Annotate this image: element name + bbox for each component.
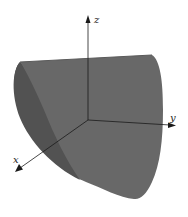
3d-surface-figure: z y x: [0, 0, 188, 217]
z-axis-label: z: [93, 14, 100, 25]
y-axis-label: y: [169, 112, 176, 123]
x-axis-label: x: [13, 154, 19, 165]
x-axis-arrowhead-icon: [15, 164, 23, 172]
z-axis-arrowhead-icon: [86, 15, 91, 23]
y-axis-arrowhead-icon: [168, 123, 176, 129]
